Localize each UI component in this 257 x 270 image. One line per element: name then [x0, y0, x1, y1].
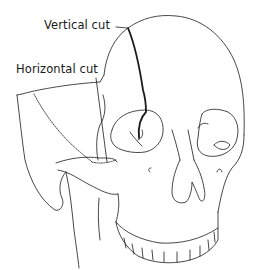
zygoma-contour	[97, 95, 105, 160]
horizontal-cut-label: Horizontal cut	[16, 64, 98, 76]
nasal-aperture	[172, 160, 205, 203]
right-foramen	[217, 169, 222, 172]
left-orbit	[111, 110, 163, 153]
mandible-ramus	[66, 172, 79, 268]
left-orbit-inner	[130, 130, 143, 146]
right-maxilla-contour	[218, 135, 244, 212]
left-foramen	[149, 168, 151, 172]
right-orbit	[197, 109, 238, 156]
vertical-cut-label: Vertical cut	[44, 20, 110, 32]
dotted-osteotomy-line	[34, 94, 92, 162]
right-orbit-inner	[214, 141, 230, 149]
left-cheek	[58, 170, 118, 194]
cranium-outline	[104, 16, 244, 136]
vertical-cut-line	[128, 28, 146, 138]
left-maxilla-contour	[56, 157, 117, 163]
ramus-inner	[98, 198, 100, 240]
temporal-back	[17, 95, 66, 210]
horizontal-cut-pointer	[96, 78, 107, 162]
vertical-cut-pointer	[116, 27, 127, 28]
temporal-outline	[17, 75, 104, 95]
nasal-bridge	[172, 130, 194, 160]
skull-drawing	[0, 0, 257, 270]
gum-line	[116, 222, 218, 243]
skull-osteotomy-diagram: Vertical cut Horizontal cut	[0, 0, 257, 270]
upper-teeth-outline	[116, 212, 218, 263]
dotted-horizontal-cut	[92, 160, 116, 163]
left-maxilla-lower	[116, 194, 119, 222]
